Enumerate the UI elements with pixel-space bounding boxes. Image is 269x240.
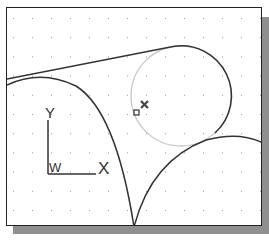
grid-dot [51,95,52,96]
grid-dot [89,56,90,57]
drawing-canvas[interactable]: Y W X [7,8,261,225]
grid-dot [127,172,128,173]
grid-dot [32,191,33,192]
grid-dot [203,210,204,211]
grid-dot [89,133,90,134]
grid-dot [13,76,14,77]
grid-dot [241,95,242,96]
tangent-line[interactable] [7,47,173,79]
grid-dot [32,152,33,153]
circle-dark-arc[interactable] [173,46,232,133]
grid-dot [89,37,90,38]
grid-dot [89,172,90,173]
grid-dot [260,172,261,173]
grid-dot [203,37,204,38]
grid-dot [260,152,261,153]
grid-dot [222,76,223,77]
grid-dot [203,191,204,192]
grid-dot [241,18,242,19]
grid-dot [108,191,109,192]
grid-dot [13,18,14,19]
grid-dot [146,210,147,211]
grid-dot [70,152,71,153]
grid-dot [51,37,52,38]
grid-dot [70,95,71,96]
grid-dot [70,56,71,57]
grid-dot [184,114,185,115]
grid-dot [13,210,14,211]
grid-dot [241,133,242,134]
construction-circle[interactable] [131,46,231,146]
grid-dot [203,95,204,96]
grid-dot [203,56,204,57]
grid-dot [165,172,166,173]
grid-dot [241,76,242,77]
grid-dot [51,18,52,19]
grid-dot [222,18,223,19]
grid-dot [222,152,223,153]
grid-dot [127,76,128,77]
grid-dot [241,191,242,192]
grid-dot [165,95,166,96]
grid-dot [32,37,33,38]
grid-dot [89,114,90,115]
grid-dot [241,37,242,38]
grid-dot [70,37,71,38]
grid-dot [203,172,204,173]
grid-dot [222,133,223,134]
grid-dot [89,95,90,96]
grid-dot [108,56,109,57]
grid-dot [184,76,185,77]
grid-dot [260,56,261,57]
frame-shadow-bottom [13,226,269,234]
grid-dot [184,210,185,211]
right-arc[interactable] [134,136,261,225]
grid-dot [165,37,166,38]
frame-shadow-right [262,17,269,234]
grid-dot [32,133,33,134]
grid-dot [146,172,147,173]
grid-dot [203,18,204,19]
grid-dot [260,18,261,19]
grid-dot [184,191,185,192]
grid-dot [165,76,166,77]
grid-dot [222,56,223,57]
grid-dot [222,172,223,173]
grid-dot [51,76,52,77]
grid-dot [127,133,128,134]
grid-dot [127,37,128,38]
grid-dot [51,191,52,192]
grid-dot [108,18,109,19]
grid-dot [165,114,166,115]
grid-dot [146,18,147,19]
grid-dot [89,191,90,192]
grid-dot [108,152,109,153]
grid-dot [184,95,185,96]
grid-dot [32,172,33,173]
grid-dot [165,191,166,192]
grid-dot [165,18,166,19]
grid-dot [260,114,261,115]
grid-dot [260,37,261,38]
grid-dot [13,95,14,96]
grid-dot [260,76,261,77]
ucs-x-label: X [98,159,109,178]
grid-dot [70,18,71,19]
grid-dot [108,37,109,38]
grid-dot [70,191,71,192]
grid-dot [70,114,71,115]
grid-dot [203,114,204,115]
grid-dot [184,37,185,38]
grid-dot [222,210,223,211]
grid-dot [70,76,71,77]
grid-dot [89,210,90,211]
drawing-viewport[interactable]: Y W X [6,7,262,226]
left-arc[interactable] [7,77,134,225]
grid-dot [184,172,185,173]
grid-dot [108,76,109,77]
grid-dot [241,172,242,173]
grid-dot [146,56,147,57]
grid-dot [108,210,109,211]
grid-dot [260,210,261,211]
grid-dot [127,95,128,96]
